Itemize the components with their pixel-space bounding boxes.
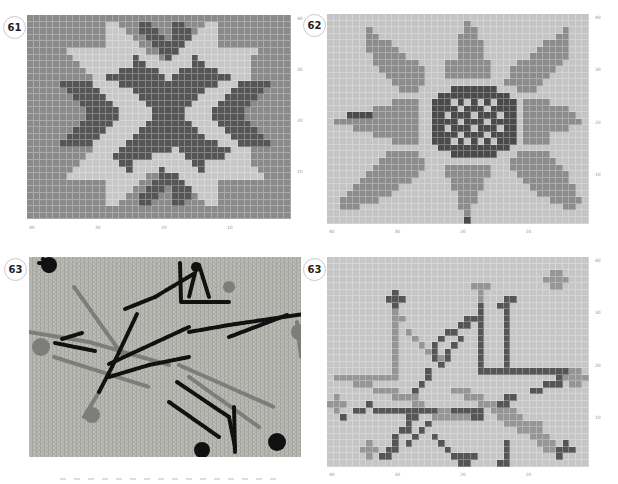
chart-cell [86, 15, 93, 22]
chart-cell [271, 173, 278, 180]
chart-cell [27, 28, 34, 35]
chart-cell [146, 22, 153, 29]
chart-cell [258, 180, 265, 187]
chart-cell [278, 88, 285, 95]
chart-cell [67, 140, 74, 147]
chart-cell [40, 22, 47, 29]
chart-cell [159, 140, 166, 147]
chart-cell [73, 41, 80, 48]
chart-cell [53, 61, 60, 68]
chart-cell [165, 88, 172, 95]
chart-cell [93, 200, 100, 207]
chart-cell [93, 153, 100, 160]
chart-cell [93, 107, 100, 114]
chart-cell [212, 153, 219, 160]
chart-cell [278, 147, 285, 154]
chart-cell [60, 200, 67, 207]
chart-cell [119, 35, 126, 42]
chart-cell [245, 61, 252, 68]
chart-cell [73, 127, 80, 134]
chart-cell [225, 94, 232, 101]
chart-cell [53, 121, 60, 128]
chart-cell [73, 134, 80, 141]
chart-cell [34, 153, 41, 160]
chart-cell [159, 88, 166, 95]
chart-cell [113, 114, 120, 121]
chart-cell [100, 213, 107, 220]
chart-cell [106, 114, 113, 121]
chart-cell [139, 140, 146, 147]
chart-cell [165, 147, 172, 154]
chart-cell [159, 200, 166, 207]
chart-cell [251, 88, 258, 95]
chart-cell [238, 193, 245, 200]
chart-cell [60, 94, 67, 101]
chart-cell [60, 147, 67, 154]
y-axis-tick: 10 [297, 169, 303, 174]
chart-cell [47, 74, 54, 81]
chart-cell [106, 153, 113, 160]
chart-cell [139, 200, 146, 207]
chart-cell [126, 28, 133, 35]
chart-cell [264, 101, 271, 108]
chart-cell [271, 134, 278, 141]
chart-cell [165, 167, 172, 174]
chart-cell [126, 206, 133, 213]
chart-cell [27, 114, 34, 121]
chart-cell [34, 114, 41, 121]
chart-cell [159, 147, 166, 154]
chart-cell [159, 107, 166, 114]
chart-cell [100, 186, 107, 193]
chart-cell [126, 41, 133, 48]
chart-cell [146, 140, 153, 147]
chart-cell [198, 200, 205, 207]
chart-cell [238, 68, 245, 75]
chart-cell [152, 153, 159, 160]
chart-cell [119, 101, 126, 108]
chart-cell [225, 160, 232, 167]
chart-cell [40, 35, 47, 42]
chart-cell [179, 200, 186, 207]
chart-cell [53, 15, 60, 22]
chart-cell [245, 114, 252, 121]
chart-cell [152, 28, 159, 35]
chart-cell [172, 114, 179, 121]
chart-cell [60, 15, 67, 22]
chart-cell [212, 200, 219, 207]
chart-cell [139, 107, 146, 114]
chart-cell [238, 74, 245, 81]
chart-cell [284, 15, 291, 22]
chart-cell [40, 74, 47, 81]
chart-cell [212, 167, 219, 174]
chart-cell [264, 28, 271, 35]
chart-cell [86, 127, 93, 134]
chart-cell [27, 140, 34, 147]
chart-cell [278, 213, 285, 220]
chart-cell [100, 180, 107, 187]
chart-cell [100, 193, 107, 200]
chart-cell [185, 15, 192, 22]
badge-63-chart: 63 [303, 258, 326, 281]
y-axis-tick: 40 [595, 258, 601, 263]
chart-cell [40, 153, 47, 160]
chart-cell [67, 186, 74, 193]
chart-cell [258, 121, 265, 128]
chart-cell [73, 213, 80, 220]
chart-cell [192, 160, 199, 167]
chart-cell [205, 186, 212, 193]
chart-cell [133, 153, 140, 160]
chart-cell [271, 55, 278, 62]
chart-cell [192, 48, 199, 55]
chart-cell [40, 134, 47, 141]
chart-cell [245, 153, 252, 160]
chart-cell [146, 200, 153, 207]
chart-cell [119, 147, 126, 154]
chart-cell [113, 94, 120, 101]
chart-cell [34, 193, 41, 200]
chart-cell [231, 81, 238, 88]
chart-cell [165, 153, 172, 160]
chart-cell [198, 186, 205, 193]
chart-cell [119, 55, 126, 62]
chart-cell [225, 107, 232, 114]
chart-cell [119, 134, 126, 141]
